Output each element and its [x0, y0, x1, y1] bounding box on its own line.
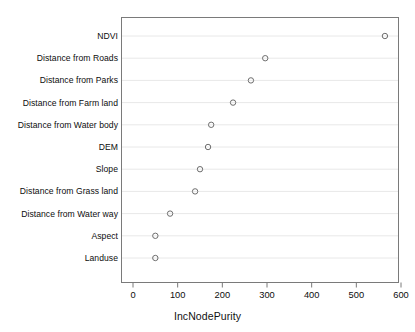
y-axis-label: Distance from Water body — [18, 120, 118, 130]
y-axis-label: Slope — [96, 164, 118, 174]
x-tick-label: 600 — [393, 290, 409, 300]
y-axis-label: Aspect — [91, 231, 118, 241]
plot-frame — [122, 18, 399, 283]
y-axis-label: Distance from Roads — [37, 53, 118, 63]
y-axis-label: NDVI — [97, 31, 118, 41]
y-axis-label: DEM — [99, 142, 118, 152]
y-axis-label: Distance from Parks — [40, 75, 118, 85]
x-tick-label: 200 — [215, 290, 231, 300]
x-tick-label: 400 — [304, 290, 320, 300]
variable-importance-dotplot: NDVIDistance from RoadsDistance from Par… — [0, 0, 415, 332]
plot-canvas — [0, 0, 415, 332]
x-tick-label: 100 — [170, 290, 186, 300]
y-axis-label: Distance from Grass land — [20, 186, 118, 196]
x-tick-label: 0 — [130, 290, 135, 300]
y-axis-label: Landuse — [85, 253, 118, 263]
plot-border — [122, 18, 399, 283]
y-axis-label: Distance from Farm land — [23, 98, 118, 108]
x-tick-label: 500 — [349, 290, 365, 300]
x-axis-tickmarks — [133, 283, 401, 288]
x-tick-label: 300 — [259, 290, 275, 300]
x-axis-title: IncNodePurity — [0, 310, 415, 322]
gridlines-group — [122, 36, 398, 258]
y-axis-label: Distance from Water way — [21, 209, 118, 219]
